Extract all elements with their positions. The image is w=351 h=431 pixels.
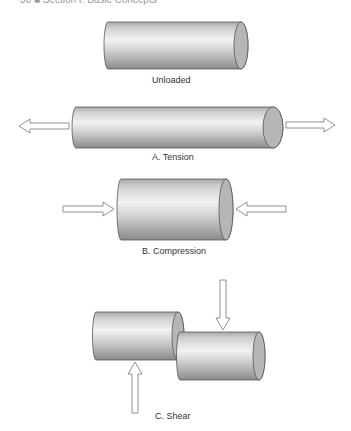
shear-arrow-down-icon (216, 280, 230, 330)
compression-cylinder (117, 179, 233, 240)
compression-label: B. Compression (142, 246, 206, 256)
shear-right-cylinder (177, 332, 266, 380)
unloaded-cylinder (104, 22, 248, 69)
tension-label: A. Tension (152, 152, 194, 162)
compression-arrow-right-icon (236, 202, 286, 216)
shear-left-cylinder (93, 312, 184, 360)
tension-arrow-left-icon (19, 119, 69, 133)
stress-types-figure (0, 0, 351, 431)
compression-arrow-left-icon (63, 202, 114, 216)
unloaded-label: Unloaded (152, 75, 191, 85)
shear-arrow-up-icon (128, 362, 142, 413)
shear-label: C. Shear (155, 411, 191, 421)
tension-arrow-right-icon (286, 118, 335, 132)
tension-cylinder (72, 107, 283, 148)
